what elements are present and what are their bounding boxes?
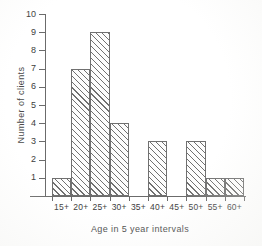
x-tick-mark <box>148 196 149 201</box>
histogram-bar <box>206 178 225 196</box>
y-tick-mark <box>39 105 45 106</box>
x-tick-mark <box>225 196 226 201</box>
y-tick-label: 9 <box>22 28 36 37</box>
y-tick-mark <box>39 69 45 70</box>
y-tick-mark <box>39 178 45 179</box>
y-tick-label: 7 <box>22 64 36 73</box>
y-tick-label: 4 <box>22 119 36 128</box>
y-tick-mark <box>39 32 45 33</box>
x-tick-label: 60+ <box>219 203 249 212</box>
histogram-bar <box>52 178 71 196</box>
y-tick-mark <box>39 14 45 15</box>
x-tick-mark <box>244 196 245 201</box>
x-tick-mark <box>167 196 168 201</box>
histogram-bar <box>110 123 129 196</box>
x-tick-mark <box>90 196 91 201</box>
y-tick-mark <box>39 123 45 124</box>
histogram-bar <box>71 69 90 196</box>
y-tick-label: 10 <box>22 10 36 19</box>
histogram-figure: Number of clients Age in 5 year interval… <box>0 0 262 246</box>
histogram-bar <box>148 141 167 196</box>
y-tick-mark <box>39 160 45 161</box>
y-tick-label: 6 <box>22 82 36 91</box>
x-axis-line <box>30 196 246 197</box>
histogram-bar <box>90 32 109 196</box>
y-tick-label: 3 <box>22 137 36 146</box>
x-tick-mark <box>186 196 187 201</box>
x-axis-title: Age in 5 year intervals <box>34 224 246 234</box>
y-tick-mark <box>39 87 45 88</box>
y-tick-mark <box>39 141 45 142</box>
x-tick-mark <box>110 196 111 201</box>
y-axis-line <box>45 14 46 196</box>
y-tick-label: 2 <box>22 155 36 164</box>
y-tick-mark <box>39 50 45 51</box>
x-tick-mark <box>71 196 72 201</box>
y-tick-label: 8 <box>22 46 36 55</box>
histogram-bar <box>186 141 205 196</box>
y-tick-label: 1 <box>22 173 36 182</box>
x-tick-mark <box>52 196 53 201</box>
x-tick-mark <box>206 196 207 201</box>
x-tick-mark <box>129 196 130 201</box>
histogram-bar <box>225 178 244 196</box>
y-tick-label: 5 <box>22 101 36 110</box>
